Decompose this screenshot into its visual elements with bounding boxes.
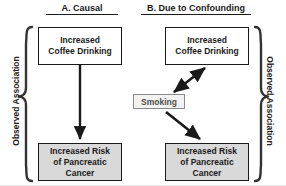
node-label: Increased Risk of Pancreatic Cancer bbox=[50, 146, 110, 179]
node-label: Increased Risk of Pancreatic Cancer bbox=[177, 146, 237, 179]
node-label-line2: Coffee Drinking bbox=[48, 46, 111, 56]
panel-b-confounder-cause-arrow bbox=[174, 68, 205, 92]
node-label: Increased Coffee Drinking bbox=[175, 35, 238, 57]
node-panel-b-pancreatic-cancer: Increased Risk of Pancreatic Cancer bbox=[165, 143, 249, 181]
node-label-line3: Cancer bbox=[66, 168, 95, 178]
left-brace-label: Observed Association bbox=[11, 49, 21, 153]
node-label-line1: Increased bbox=[60, 35, 100, 45]
node-label: Increased Coffee Drinking bbox=[48, 35, 111, 57]
panel-b-title: B. Due to Confounding bbox=[141, 3, 251, 15]
node-label-line2: of Pancreatic bbox=[180, 157, 233, 167]
panel-b-confounder-effect-arrow bbox=[166, 112, 200, 139]
node-label: Smoking bbox=[141, 97, 177, 107]
node-label-line1: Increased bbox=[187, 35, 227, 45]
causal-diagram-figure: A. Causal B. Due to Confounding bbox=[0, 0, 286, 186]
node-panel-a-coffee-drinking: Increased Coffee Drinking bbox=[38, 27, 122, 65]
right-brace-label: Observed Association bbox=[265, 49, 275, 153]
node-panel-a-pancreatic-cancer: Increased Risk of Pancreatic Cancer bbox=[38, 143, 122, 181]
node-label-line3: Cancer bbox=[193, 168, 222, 178]
node-label-line1: Increased Risk bbox=[177, 146, 237, 156]
node-panel-b-coffee-drinking: Increased Coffee Drinking bbox=[165, 27, 249, 65]
node-label-line1: Increased Risk bbox=[50, 146, 110, 156]
node-label-line2: Coffee Drinking bbox=[175, 46, 238, 56]
node-panel-b-smoking: Smoking bbox=[133, 94, 185, 109]
node-label-line2: of Pancreatic bbox=[53, 157, 106, 167]
panel-a-title: A. Causal bbox=[46, 3, 118, 15]
